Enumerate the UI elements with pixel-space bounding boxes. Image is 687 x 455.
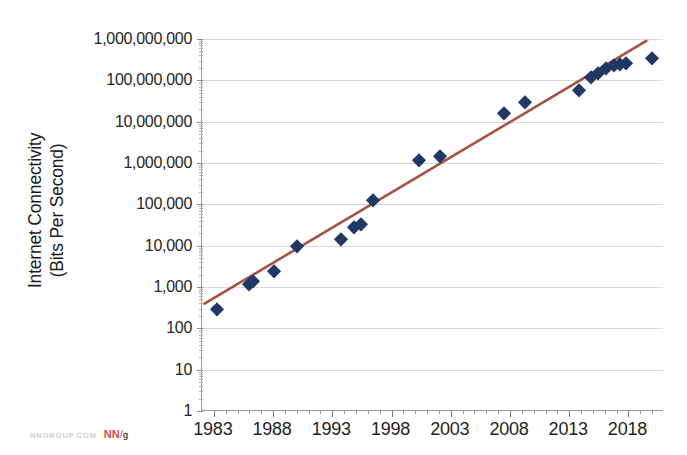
x-tick-major	[214, 410, 215, 417]
y-tick-minor	[199, 341, 203, 342]
y-tick-minor	[199, 399, 203, 400]
x-tick-minor	[238, 410, 239, 414]
data-point	[268, 265, 281, 278]
y-tick-minor	[199, 55, 203, 56]
y-tick-minor	[199, 109, 203, 110]
y-tick-major	[197, 39, 203, 40]
nng-logo: NN/g	[104, 428, 128, 440]
x-tick-minor	[581, 410, 582, 414]
x-tick-label: 1988	[252, 419, 291, 440]
y-tick-minor	[199, 192, 203, 193]
x-tick-minor	[546, 410, 547, 414]
y-tick-minor	[199, 185, 203, 186]
y-tick-minor	[199, 128, 203, 129]
y-tick-major	[197, 246, 203, 247]
data-point	[519, 95, 532, 108]
y-tick-minor	[199, 87, 203, 88]
gridline	[202, 122, 663, 123]
y-tick-minor	[199, 332, 203, 333]
x-tick-minor	[356, 410, 357, 414]
plot-area	[201, 39, 663, 411]
y-tick-minor	[199, 357, 203, 358]
y-tick-major	[197, 163, 203, 164]
x-tick-label: 2018	[608, 419, 647, 440]
x-tick-major	[510, 410, 511, 417]
y-tick-minor	[199, 309, 203, 310]
x-tick-label: 2013	[549, 419, 588, 440]
y-tick-minor	[199, 124, 203, 125]
y-tick-minor	[199, 126, 203, 127]
y-tick-minor	[199, 262, 203, 263]
y-tick-minor	[199, 169, 203, 170]
y-tick-minor	[199, 275, 203, 276]
x-tick-major	[332, 410, 333, 417]
logo-nn-text: NN	[104, 428, 120, 440]
x-tick-minor	[380, 410, 381, 414]
y-tick-minor	[199, 206, 203, 207]
y-tick-minor	[199, 131, 203, 132]
y-tick-label: 100,000	[52, 195, 192, 213]
x-tick-label: 1998	[371, 419, 410, 440]
trend-line	[202, 39, 663, 410]
y-tick-minor	[199, 376, 203, 377]
y-tick-minor	[199, 316, 203, 317]
y-tick-minor	[199, 48, 203, 49]
data-point	[572, 83, 585, 96]
x-tick-major	[628, 410, 629, 417]
y-tick-minor	[199, 143, 203, 144]
y-tick-major	[197, 370, 203, 371]
y-tick-minor	[199, 296, 203, 297]
y-tick-minor	[199, 41, 203, 42]
x-tick-label: 1983	[193, 419, 232, 440]
x-tick-minor	[439, 410, 440, 414]
y-tick-minor	[199, 134, 203, 135]
y-tick-label: 10,000,000	[52, 113, 192, 131]
y-tick-minor	[199, 208, 203, 209]
y-tick-minor	[199, 372, 203, 373]
y-tick-minor	[199, 303, 203, 304]
y-tick-minor	[199, 330, 203, 331]
x-tick-minor	[261, 410, 262, 414]
x-tick-minor	[309, 410, 310, 414]
x-tick-minor	[320, 410, 321, 414]
y-tick-label: 1	[52, 402, 192, 420]
y-tick-minor	[199, 345, 203, 346]
x-tick-minor	[285, 410, 286, 414]
x-tick-minor	[522, 410, 523, 414]
x-tick-major	[451, 410, 452, 417]
y-tick-minor	[199, 217, 203, 218]
y-tick-major	[197, 328, 203, 329]
gridline	[202, 328, 663, 329]
x-tick-minor	[557, 410, 558, 414]
nngroup-watermark: NNGROUP.COM NN/g	[30, 428, 128, 440]
y-tick-minor	[199, 90, 203, 91]
y-tick-minor	[199, 138, 203, 139]
x-tick-minor	[427, 410, 428, 414]
y-tick-minor	[199, 258, 203, 259]
y-tick-minor	[199, 167, 203, 168]
y-tick-minor	[199, 252, 203, 253]
y-tick-minor	[199, 386, 203, 387]
x-tick-minor	[344, 410, 345, 414]
x-tick-minor	[474, 410, 475, 414]
y-tick-label: 100,000,000	[52, 71, 192, 89]
y-tick-minor	[199, 299, 203, 300]
y-tick-minor	[199, 165, 203, 166]
x-tick-minor	[297, 410, 298, 414]
y-tick-major	[197, 122, 203, 123]
x-tick-label: 1993	[312, 419, 351, 440]
y-tick-label: 10,000	[52, 237, 192, 255]
y-tick-minor	[199, 379, 203, 380]
y-tick-label: 10	[52, 361, 192, 379]
x-tick-minor	[617, 410, 618, 414]
y-tick-minor	[199, 151, 203, 152]
x-tick-label: 2003	[430, 419, 469, 440]
data-point	[334, 232, 347, 245]
x-tick-minor	[605, 410, 606, 414]
y-tick-minor	[199, 233, 203, 234]
y-tick-minor	[199, 51, 203, 52]
gridline	[202, 39, 663, 40]
x-tick-minor	[640, 410, 641, 414]
y-tick-minor	[199, 289, 203, 290]
y-tick-minor	[199, 84, 203, 85]
